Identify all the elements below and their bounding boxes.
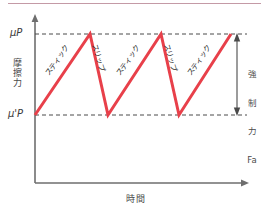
y-axis: [32, 14, 39, 183]
forced-force-label: 強 制 力 Fa: [244, 51, 260, 184]
friction-stick-slip-figure: μP μ'P 摩擦力 時間 スティック スティック スティック スリップ スリッ…: [0, 0, 265, 213]
x-axis-title: 時間: [126, 195, 146, 204]
forced-force-char-3: 力: [244, 127, 260, 137]
y-tick-label-upper: μP: [10, 28, 22, 39]
x-axis: [35, 180, 249, 187]
y-tick-label-lower: μ'P: [8, 109, 23, 120]
forced-force-symbol: Fa: [244, 156, 260, 166]
y-axis-title: 摩擦力: [12, 58, 21, 88]
forced-amplitude-arrow: [234, 33, 240, 116]
forced-force-char-1: 強: [244, 70, 260, 80]
chart-canvas: [0, 0, 265, 213]
forced-force-char-2: 制: [244, 99, 260, 109]
